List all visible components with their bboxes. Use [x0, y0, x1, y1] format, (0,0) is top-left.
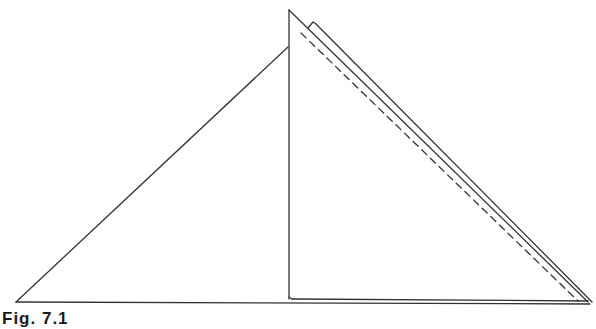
- dashed-crease-line: [301, 33, 578, 301]
- right-diagonal-edge: [289, 10, 588, 302]
- base-line: [16, 302, 590, 304]
- flap-outer-edge: [308, 22, 592, 302]
- left-diagonal-edge: [16, 47, 288, 302]
- figure-caption: Fig. 7.1: [2, 309, 69, 329]
- flap-bottom-edge: [292, 299, 588, 301]
